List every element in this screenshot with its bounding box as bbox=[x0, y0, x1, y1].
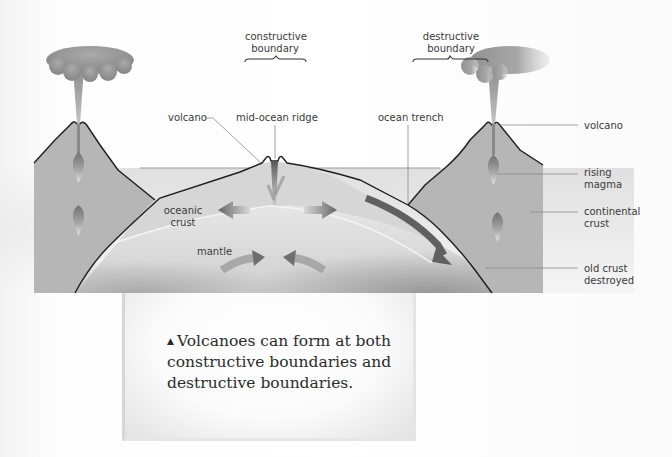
label-line: crust bbox=[160, 217, 206, 229]
label-old-crust-destroyed: old crust destroyed bbox=[584, 263, 634, 287]
boundary-label-line: boundary bbox=[418, 43, 484, 55]
label-line: old crust bbox=[584, 263, 634, 275]
triangle-up-icon: ▲ bbox=[167, 336, 174, 346]
boundary-label-line: boundary bbox=[245, 43, 305, 55]
leader-volcano-left bbox=[205, 118, 261, 163]
caption-body: Volcanoes can form at both constructive … bbox=[167, 332, 391, 392]
constructive-brace bbox=[245, 56, 306, 62]
label-line: oceanic bbox=[160, 205, 206, 217]
label-mantle: mantle bbox=[197, 246, 232, 258]
boundary-label-line: destructive bbox=[418, 31, 484, 43]
label-ocean-trench: ocean trench bbox=[378, 112, 444, 124]
label-line: crust bbox=[584, 218, 640, 230]
label-oceanic-crust: oceanic crust bbox=[160, 205, 206, 229]
label-line: magma bbox=[584, 179, 622, 191]
label-line: rising bbox=[584, 167, 622, 179]
label-constructive-boundary: constructive boundary bbox=[245, 31, 305, 55]
caption-text: ▲Volcanoes can form at both constructive… bbox=[167, 331, 407, 394]
label-continental-crust: continental crust bbox=[584, 206, 640, 230]
label-line: destroyed bbox=[584, 275, 634, 287]
label-volcano-left: volcano bbox=[168, 112, 207, 124]
label-rising-magma: rising magma bbox=[584, 167, 622, 191]
label-destructive-boundary: destructive boundary bbox=[418, 31, 484, 55]
label-volcano-right: volcano bbox=[584, 120, 623, 132]
label-mid-ocean-ridge: mid-ocean ridge bbox=[236, 112, 318, 124]
boundary-label-line: constructive bbox=[245, 31, 305, 43]
ash-cloud-left bbox=[46, 46, 134, 82]
plate-boundary-diagram bbox=[0, 0, 672, 300]
label-line: continental bbox=[584, 206, 640, 218]
caption-box: ▲Volcanoes can form at both constructive… bbox=[122, 293, 416, 441]
